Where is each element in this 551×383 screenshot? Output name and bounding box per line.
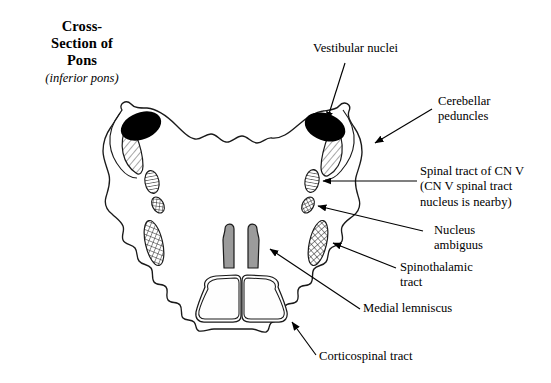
medial-lemniscus-right	[248, 224, 259, 268]
medial-lemniscus-left	[223, 224, 234, 268]
label-spinal-tract-cn5: Spinal tract of CN V (CN V spinal tract …	[420, 164, 524, 210]
label-spinothalamic-tract: Spinothalamic tract	[400, 260, 473, 291]
pons-cross-section-figure: Cross- Section of Pons (inferior pons)	[0, 0, 551, 383]
label-cerebellar-peduncles: Cerebellar peduncles	[438, 94, 490, 125]
leader-cerebellar-peduncles	[375, 109, 432, 143]
label-vestibular-nuclei: Vestibular nuclei	[313, 41, 398, 56]
corticospinal-tract-group	[196, 275, 287, 322]
label-corticospinal-tract: Corticospinal tract	[319, 349, 412, 364]
leader-spinothalamic-tract	[333, 243, 396, 268]
label-nucleus-ambiguus: Nucleus ambiguus	[434, 223, 483, 254]
leader-corticospinal-tract	[292, 322, 316, 355]
label-medial-lemniscus: Medial lemniscus	[363, 301, 452, 316]
